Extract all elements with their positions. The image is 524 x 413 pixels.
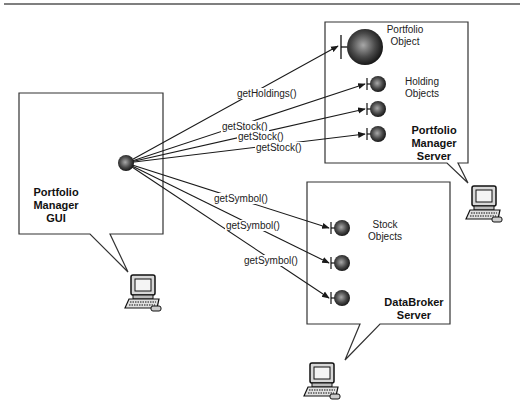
call-label-getsymbol-2: getSymbol() (225, 220, 281, 231)
databroker-server-callout-box (307, 182, 450, 360)
call-label-getsymbol-3: getSymbol() (243, 255, 299, 266)
call-label-getstock-3: getStock() (255, 142, 303, 153)
portfolio-server-title-line1: Portfolio (404, 124, 464, 137)
stock-objects-label: Stock Objects (360, 219, 410, 243)
call-label-getstock-2: getStock() (237, 131, 285, 142)
gui-title-line3: GUI (28, 212, 84, 225)
holding-objects-label-line2: Objects (396, 88, 448, 100)
call-label-getholdings: getHoldings() (236, 88, 297, 99)
holding-objects-label: Holding Objects (396, 76, 448, 100)
databroker-server-title-line2: Server (382, 309, 446, 322)
databroker-server-title: DataBroker Server (382, 296, 446, 322)
portfolio-server-title: Portfolio Manager Server (404, 124, 464, 163)
portfolio-object-label-line2: Object (378, 36, 432, 48)
portfolio-server-computer-icon (466, 186, 502, 222)
gui-callout-box (19, 93, 163, 272)
call-label-getsymbol-1: getSymbol() (213, 193, 269, 204)
databroker-server-computer-icon (304, 363, 340, 399)
portfolio-server-title-line3: Server (404, 150, 464, 163)
gui-title-line2: Manager (28, 199, 84, 212)
gui-title-line1: Portfolio (28, 186, 84, 199)
stock-objects-label-line1: Stock (360, 219, 410, 231)
client-proxy-sphere-icon (118, 155, 134, 171)
databroker-server-title-line1: DataBroker (382, 296, 446, 309)
portfolio-object-label: Portfolio Object (378, 24, 432, 48)
stock-objects-label-line2: Objects (360, 231, 410, 243)
gui-title: Portfolio Manager GUI (28, 186, 84, 225)
gui-computer-icon (125, 275, 161, 311)
holding-objects-label-line1: Holding (396, 76, 448, 88)
portfolio-server-title-line2: Manager (404, 137, 464, 150)
portfolio-object-label-line1: Portfolio (378, 24, 432, 36)
